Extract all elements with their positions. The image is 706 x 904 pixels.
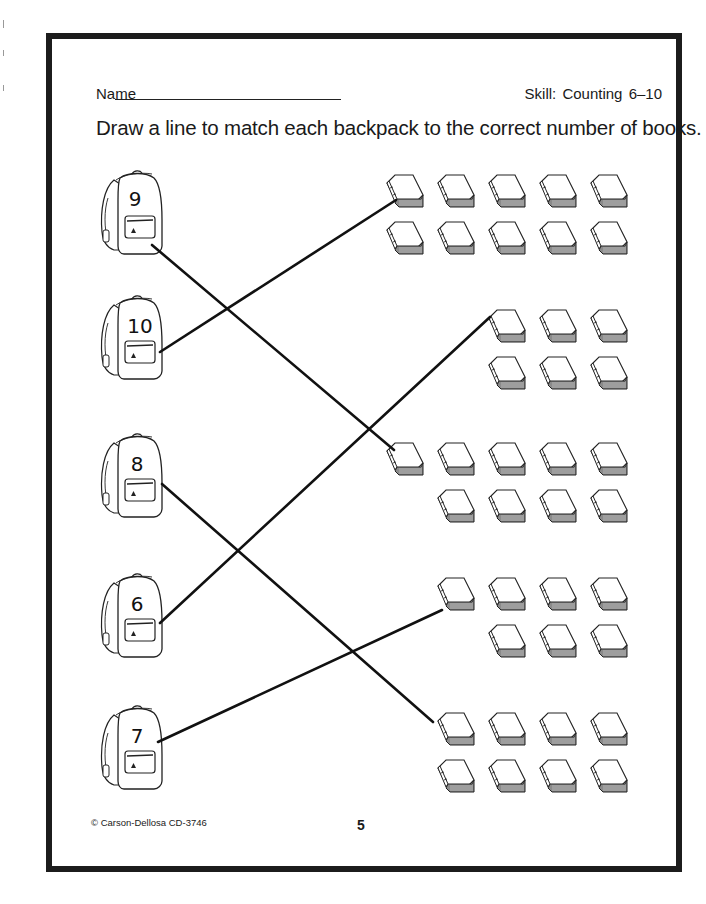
- backpack-8: 8: [102, 434, 163, 517]
- book-group-8[interactable]: [438, 713, 627, 792]
- backpack-icon: [102, 171, 163, 254]
- match-line-7: [158, 610, 442, 742]
- svg-text:8: 8: [131, 452, 144, 476]
- match-line-10: [160, 200, 396, 352]
- match-line-8: [162, 484, 433, 722]
- page-number: 5: [357, 817, 365, 833]
- svg-text:6: 6: [131, 592, 144, 616]
- match-line-9: [152, 245, 394, 450]
- match-line-6: [160, 317, 490, 623]
- worksheet-art: 9 10 8 6 7: [0, 0, 706, 904]
- backpack-7: 7: [102, 706, 163, 789]
- backpack-6: 6: [102, 574, 163, 657]
- backpack-9: 9: [102, 171, 163, 254]
- backpack-10: 10: [102, 296, 163, 379]
- svg-text:9: 9: [129, 187, 142, 211]
- svg-text:10: 10: [127, 314, 152, 338]
- book-group-7[interactable]: [438, 578, 627, 657]
- svg-text:7: 7: [131, 724, 144, 748]
- book-group-10[interactable]: [387, 175, 627, 254]
- copyright-notice: © Carson-Dellosa CD-3746: [91, 817, 207, 828]
- book-group-9[interactable]: [387, 443, 627, 522]
- book-group-6[interactable]: [489, 310, 627, 389]
